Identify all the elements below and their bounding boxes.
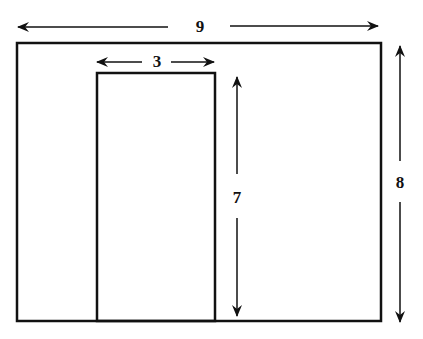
outer-height-dimension: 8 [396, 46, 405, 322]
inner-width-label: 3 [153, 52, 162, 71]
inner-height-dimension: 7 [233, 77, 242, 316]
inner-rectangle [97, 73, 215, 321]
inner-height-label: 7 [233, 188, 242, 207]
inner-width-dimension: 3 [97, 52, 214, 71]
outer-width-dimension: 9 [18, 17, 378, 36]
outer-width-label: 9 [196, 17, 205, 36]
dimension-diagram: 9 3 7 8 [0, 0, 423, 339]
outer-rectangle [17, 43, 381, 321]
outer-height-label: 8 [396, 173, 405, 192]
